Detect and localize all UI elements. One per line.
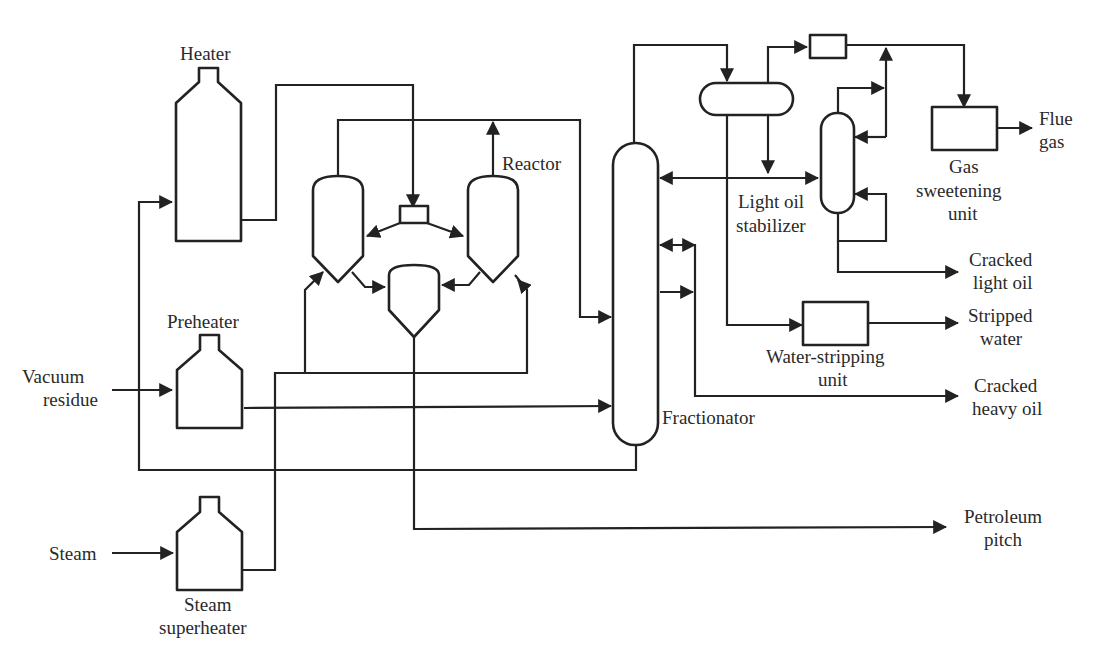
pipe-steam-to-left-reactor xyxy=(305,272,323,373)
label-steam-superheater-1: Steam xyxy=(184,594,232,615)
reactor-distributor xyxy=(400,206,428,223)
pipe-steam-to-right-reactor xyxy=(518,280,527,290)
pipe-steam-distribution xyxy=(243,275,527,570)
steam-superheater[interactable] xyxy=(177,497,242,590)
label-reactor: Reactor xyxy=(502,153,562,174)
heater[interactable] xyxy=(176,68,241,241)
label-light-oil-stabilizer-2: stabilizer xyxy=(736,215,806,236)
reactor-left[interactable] xyxy=(313,176,363,282)
label-fractionator: Fractionator xyxy=(662,407,756,428)
pipe-pumparound-return xyxy=(660,245,695,292)
label-cracked-light-oil-1: Cracked xyxy=(969,249,1033,270)
pipe-distributor-left xyxy=(367,223,400,236)
label-light-oil-stabilizer-1: Light oil xyxy=(738,191,804,212)
pipe-drum-gas-to-compressor xyxy=(768,47,807,83)
flash-drum[interactable] xyxy=(389,265,439,337)
gas-sweetening-unit[interactable] xyxy=(932,107,997,150)
label-preheater: Preheater xyxy=(167,311,239,332)
label-flue-gas-2: gas xyxy=(1039,131,1064,152)
water-stripping-unit[interactable] xyxy=(803,302,868,345)
label-gas-sweetening-2: sweetening xyxy=(916,180,1002,201)
label-gas-sweetening-1: Gas xyxy=(949,156,979,177)
label-gas-sweetening-3: unit xyxy=(948,203,978,224)
pipe-left-reactor-overhead xyxy=(338,120,580,265)
pipe-distributor-right xyxy=(427,223,463,236)
label-petroleum-pitch-1: Petroleum xyxy=(964,506,1042,527)
light-oil-stabilizer[interactable] xyxy=(821,113,854,213)
label-steam-input: Steam xyxy=(49,543,97,564)
equipment xyxy=(176,35,997,590)
label-vacuum-residue-2: residue xyxy=(43,389,98,410)
fractionator[interactable] xyxy=(613,143,658,445)
preheater[interactable] xyxy=(177,335,242,428)
pipe-preheater-to-fractionator xyxy=(244,406,611,408)
label-water-stripping-2: unit xyxy=(818,369,848,390)
process-flow-diagram: Vacuum residue Steam Heater Preheater St… xyxy=(0,0,1113,666)
pipe-right-reactor-bottom xyxy=(442,272,480,285)
label-stripped-water-2: water xyxy=(980,328,1023,349)
label-petroleum-pitch-2: pitch xyxy=(984,529,1022,550)
label-heater: Heater xyxy=(180,43,231,64)
pipe-cracked-light-oil-out xyxy=(838,241,958,272)
label-stripped-water-1: Stripped xyxy=(968,305,1033,326)
label-water-stripping-1: Water-stripping xyxy=(766,346,885,367)
label-cracked-heavy-oil-1: Cracked xyxy=(974,375,1038,396)
label-cracked-heavy-oil-2: heavy oil xyxy=(972,398,1042,419)
gas-compressor[interactable] xyxy=(810,35,846,58)
pipe-reactor-vapor-to-fractionator xyxy=(580,265,611,317)
pipe-stabilizer-overhead xyxy=(838,88,884,113)
reactor-right[interactable] xyxy=(468,176,518,282)
label-steam-superheater-2: superheater xyxy=(159,617,247,638)
pipes xyxy=(112,45,1032,570)
label-vacuum-residue-1: Vacuum xyxy=(22,366,84,387)
label-flue-gas-1: Flue xyxy=(1039,108,1073,129)
pipe-left-reactor-bottom xyxy=(352,272,385,287)
label-cracked-light-oil-2: light oil xyxy=(973,272,1033,293)
pipe-compressor-to-sweetening xyxy=(846,45,964,107)
overhead-receiver-drum[interactable] xyxy=(700,83,793,115)
